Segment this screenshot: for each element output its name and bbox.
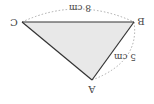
vertex-label-b: B [137, 16, 144, 27]
vertex-label-c: C [10, 17, 18, 28]
side-length-ba: 5 cm [113, 52, 136, 62]
triangle-diagram: C B A 8 cm 5 cm [0, 0, 154, 104]
diagram-canvas: C B A 8 cm 5 cm [0, 0, 154, 104]
vertex-label-a: A [88, 84, 97, 95]
side-length-cb: 8 cm [68, 3, 91, 13]
triangle-abc [22, 22, 134, 80]
